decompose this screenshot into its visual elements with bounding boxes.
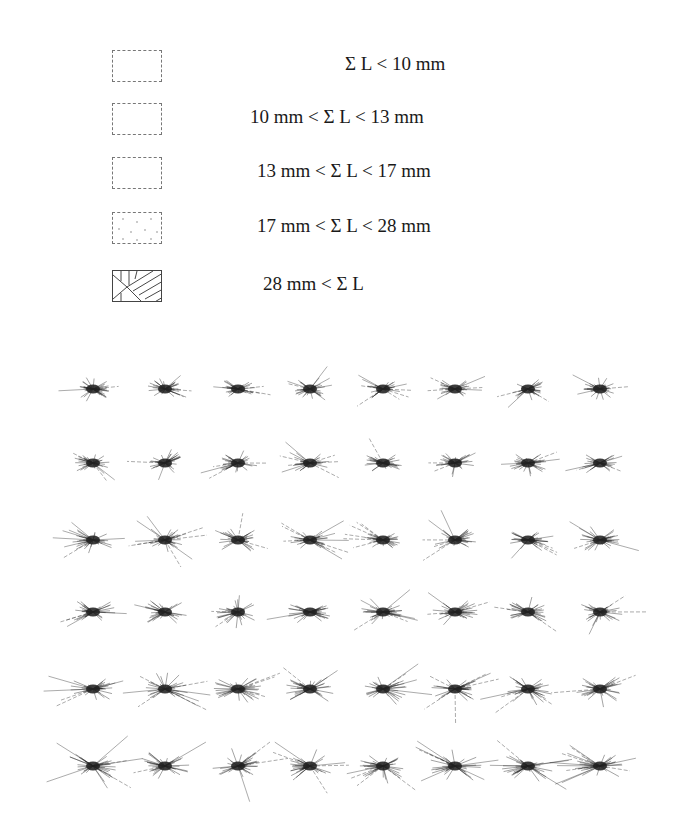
crack-star-icon <box>73 453 115 481</box>
crack-star-icon <box>148 376 192 398</box>
crack-star-icon <box>215 513 268 551</box>
crack-star-icon <box>480 677 552 713</box>
crack-star-icon <box>127 449 181 480</box>
crack-star-icon <box>490 740 572 789</box>
crack-star-icon <box>423 510 476 560</box>
crack-star-icon <box>211 595 254 628</box>
crack-star-icon <box>129 516 207 567</box>
crack-star-icon <box>213 381 270 397</box>
crack-star-icon <box>273 742 349 793</box>
crack-star-icon <box>134 742 206 779</box>
crack-star-icon <box>53 522 125 558</box>
crack-star-icon <box>287 367 332 400</box>
crack-star-icon <box>428 453 475 477</box>
crack-star-icon <box>214 673 280 702</box>
crack-star-icon <box>357 375 411 406</box>
crack-star-icon <box>565 455 622 473</box>
crack-star-icon <box>60 602 127 627</box>
crack-star-icon <box>365 438 402 471</box>
crack-star-icon <box>343 522 399 548</box>
crack-star-icon <box>570 522 639 551</box>
crack-star-icon <box>428 376 485 399</box>
crack-star-icon <box>581 596 646 635</box>
crack-star-icon <box>283 667 338 701</box>
crack-star-icon <box>550 745 636 784</box>
crack-star-icon <box>416 741 499 781</box>
crack-star-icon <box>47 736 143 788</box>
crack-star-icon <box>281 521 349 559</box>
crack-star-icon <box>280 442 340 478</box>
crack-star-icon <box>347 756 416 791</box>
crack-star-icon <box>44 676 124 706</box>
crack-star-icon <box>134 601 186 623</box>
crack-star-icon <box>201 451 267 479</box>
crack-star-icon <box>267 605 330 623</box>
crack-star-icon <box>501 452 560 476</box>
crack-star-icon <box>573 375 630 400</box>
crack-star-icon <box>59 378 119 402</box>
crack-star-icon <box>510 532 557 558</box>
crack-star-icon <box>497 380 549 408</box>
crack-star-icon <box>353 590 418 631</box>
crack-star-icon <box>213 742 288 802</box>
crack-star-icon <box>551 675 636 707</box>
star-pattern-grid <box>0 0 680 840</box>
crack-star-icon <box>123 673 210 710</box>
crack-star-icon <box>493 597 557 632</box>
crack-star-icon <box>427 593 489 625</box>
crack-star-icon <box>424 673 498 724</box>
crack-star-icon <box>365 664 432 705</box>
